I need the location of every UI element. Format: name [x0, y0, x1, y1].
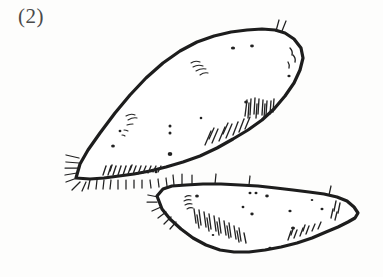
lower-tuber-outline: [157, 184, 358, 252]
upper-tuber-group: [65, 20, 303, 191]
figure-page: (2): [0, 0, 383, 277]
tuber-drawing-canvas: [0, 0, 383, 277]
upper-tuber-outline: [76, 29, 303, 179]
lower-tuber-group: [147, 174, 358, 252]
